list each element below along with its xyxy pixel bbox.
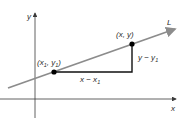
vertical-segment-label: y − y1 <box>137 53 158 63</box>
horizontal-segment-label: x − x1 <box>79 75 100 85</box>
line-label: L <box>167 18 171 27</box>
y-axis-label: y <box>26 12 32 21</box>
point-1-label: (x1, y1) <box>37 58 61 68</box>
x-axis-label: x <box>170 104 176 113</box>
point-2-label: (x, y) <box>116 30 134 39</box>
point-2-dot <box>129 41 134 46</box>
slope-diagram: y x L (x1, y1) (x, y) x − x1 y − y1 <box>0 0 184 126</box>
point-1-dot <box>51 69 56 74</box>
